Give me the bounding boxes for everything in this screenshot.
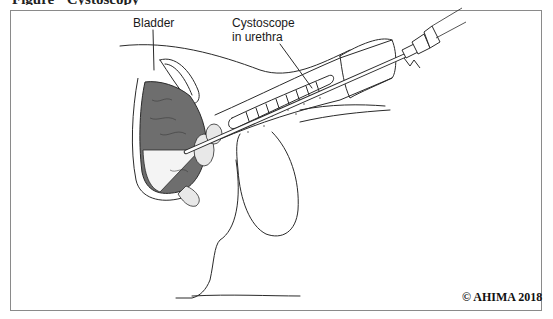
label-cystoscope: Cystoscope in urethra [232, 16, 322, 44]
ground-line [192, 295, 300, 296]
bladder-shape [132, 78, 206, 200]
leader-cystoscope [280, 44, 312, 88]
cystoscope [186, 8, 466, 152]
label-bladder: Bladder [133, 16, 174, 30]
urethra-stipple [239, 97, 321, 133]
scrotum [237, 132, 299, 236]
label-cystoscope-line2: in urethra [232, 30, 322, 44]
cystoscopy-illustration [0, 0, 553, 319]
leader-bladder [153, 30, 154, 70]
label-cystoscope-line1: Cystoscope [232, 16, 322, 30]
copyright-notice: © AHIMA 2018 [462, 290, 542, 305]
